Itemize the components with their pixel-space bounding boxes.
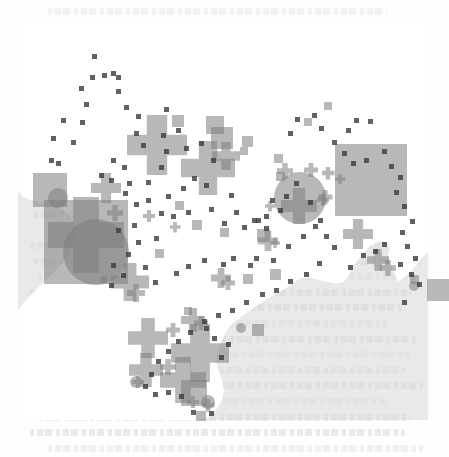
map-marker-dot[interactable] [80, 120, 85, 125]
map-marker-dot[interactable] [402, 204, 407, 209]
map-marker-dot[interactable] [270, 198, 275, 203]
map-marker-square[interactable] [240, 147, 248, 155]
map-marker-dot[interactable] [136, 240, 141, 245]
map-marker-dot[interactable] [164, 149, 169, 154]
map-marker-dot[interactable] [116, 75, 121, 80]
map-marker-dot[interactable] [402, 300, 407, 305]
map-marker-dot[interactable] [141, 143, 146, 148]
map-marker-dot[interactable] [49, 158, 54, 163]
map-marker-square[interactable] [304, 118, 312, 126]
map-marker-dot[interactable] [342, 151, 347, 156]
map-marker-dot[interactable] [199, 141, 204, 146]
map-marker-square[interactable] [243, 274, 253, 284]
map-marker-dot[interactable] [288, 131, 293, 136]
map-marker-dot[interactable] [186, 264, 191, 269]
map-marker-dot[interactable] [153, 280, 158, 285]
map-marker-dot[interactable] [332, 245, 337, 250]
map-marker-dot[interactable] [176, 339, 181, 344]
map-marker-cross[interactable] [343, 219, 373, 249]
map-marker-circle[interactable] [48, 188, 68, 208]
map-marker-dot[interactable] [417, 282, 422, 287]
map-marker-dot[interactable] [308, 200, 313, 205]
map-marker-dot[interactable] [364, 158, 369, 163]
map-marker-square[interactable] [324, 102, 332, 110]
map-marker-dot[interactable] [166, 194, 171, 199]
map-marker-dot[interactable] [354, 118, 359, 123]
map-marker-dot[interactable] [153, 392, 158, 397]
map-marker-dot[interactable] [109, 178, 114, 183]
map-marker-dot[interactable] [211, 158, 216, 163]
map-marker-square[interactable] [242, 136, 253, 147]
map-marker-dot[interactable] [221, 262, 226, 267]
map-marker-dot[interactable] [188, 330, 193, 335]
map-marker-dot[interactable] [191, 410, 196, 415]
map-marker-dot[interactable] [92, 54, 97, 59]
map-marker-dot[interactable] [278, 208, 283, 213]
map-marker-dot[interactable] [181, 186, 186, 191]
map-marker-dot[interactable] [99, 173, 104, 178]
map-marker-dot[interactable] [405, 244, 410, 249]
map-marker-circle[interactable] [236, 323, 246, 333]
map-marker-square[interactable] [427, 279, 449, 301]
map-marker-dot[interactable] [164, 107, 169, 112]
map-marker-dot[interactable] [382, 242, 387, 247]
map-marker-dot[interactable] [264, 214, 269, 219]
map-marker-dot[interactable] [126, 252, 131, 257]
map-marker-dot[interactable] [202, 258, 207, 263]
map-marker-dot[interactable] [111, 263, 116, 268]
map-marker-dot[interactable] [222, 221, 227, 226]
map-marker-dot[interactable] [143, 265, 148, 270]
map-marker-dot[interactable] [146, 198, 151, 203]
map-marker-dot[interactable] [234, 210, 239, 215]
map-marker-dot[interactable] [346, 128, 351, 133]
map-marker-dot[interactable] [216, 313, 221, 318]
map-marker-dot[interactable] [202, 319, 207, 324]
map-marker-dot[interactable] [123, 191, 128, 196]
map-marker-dot[interactable] [312, 113, 317, 118]
map-marker-dot[interactable] [389, 164, 394, 169]
map-marker-cross[interactable] [166, 323, 180, 337]
map-marker-dot[interactable] [124, 105, 129, 110]
map-marker-dot[interactable] [90, 75, 95, 80]
map-marker-dot[interactable] [136, 114, 141, 119]
map-marker-dot[interactable] [348, 265, 353, 270]
map-marker-dot[interactable] [122, 165, 127, 170]
map-marker-dot[interactable] [413, 256, 418, 261]
map-marker-square[interactable] [172, 115, 184, 127]
map-marker-dot[interactable] [226, 342, 231, 347]
map-marker-dot[interactable] [116, 228, 121, 233]
map-marker-dot[interactable] [121, 273, 126, 278]
map-marker-dot[interactable] [212, 336, 217, 341]
map-marker-dot[interactable] [111, 158, 116, 163]
map-marker-square[interactable] [220, 228, 229, 237]
map-marker-cross[interactable] [128, 318, 168, 358]
map-marker-dot[interactable] [400, 230, 405, 235]
map-marker-dot[interactable] [134, 131, 139, 136]
map-marker-dot[interactable] [56, 161, 61, 166]
map-marker-dot[interactable] [127, 181, 132, 186]
map-marker-dot[interactable] [382, 149, 387, 154]
map-marker-square[interactable] [270, 269, 281, 280]
map-marker-square[interactable] [192, 220, 202, 230]
map-marker-dot[interactable] [304, 272, 309, 277]
map-marker-dot[interactable] [373, 249, 378, 254]
map-marker-dot[interactable] [174, 271, 179, 276]
map-marker-dot[interactable] [166, 349, 171, 354]
map-marker-dot[interactable] [301, 234, 306, 239]
map-marker-dot[interactable] [209, 411, 214, 416]
map-marker-dot[interactable] [361, 253, 366, 258]
map-marker-cross[interactable] [322, 167, 335, 180]
map-marker-dot[interactable] [134, 202, 139, 207]
map-marker-dot[interactable] [295, 117, 300, 122]
map-marker-dot[interactable] [186, 210, 191, 215]
map-marker-dot[interactable] [132, 223, 137, 228]
map-marker-dot[interactable] [286, 244, 291, 249]
map-marker-dot[interactable] [171, 214, 176, 219]
map-marker-dot[interactable] [51, 136, 56, 141]
map-marker-dot[interactable] [271, 258, 276, 263]
map-marker-dot[interactable] [116, 89, 121, 94]
map-marker-dot[interactable] [84, 102, 89, 107]
map-marker-square[interactable] [196, 411, 206, 421]
map-marker-circle[interactable] [100, 276, 107, 283]
map-marker-square[interactable] [274, 154, 283, 163]
